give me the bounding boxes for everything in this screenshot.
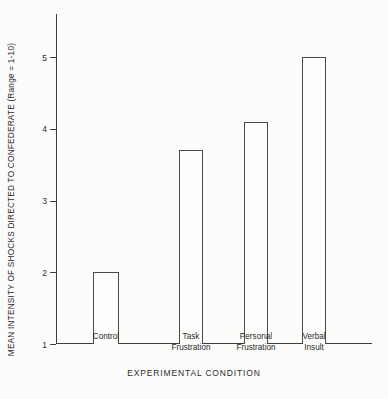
y-tick-5: 5 (50, 57, 56, 58)
y-tick-label-5: 5 (42, 53, 47, 62)
bar-personal-frustration (244, 122, 268, 344)
bar-verbal-insult (302, 57, 326, 344)
x-axis-label-3: Verbal Insult (274, 332, 354, 353)
bar-chart-figure: MEAN INTENSITY OF SHOCKS DIRECTED TO CON… (0, 0, 388, 399)
y-axis-line (56, 14, 57, 344)
x-axis-label-0: Control (66, 332, 146, 343)
y-tick-label-3: 3 (42, 197, 47, 206)
x-axis-title: EXPERIMENTAL CONDITION (0, 368, 388, 378)
y-tick-label-1: 1 (42, 340, 47, 349)
y-tick-2: 2 (50, 272, 56, 273)
y-tick-label-4: 4 (42, 125, 47, 134)
y-axis-title: MEAN INTENSITY OF SHOCKS DIRECTED TO CON… (0, 0, 22, 399)
bar-task-frustration (179, 150, 203, 344)
y-tick-1: 1 (50, 344, 56, 345)
plot-area: 12345 (56, 14, 372, 344)
y-tick-label-2: 2 (42, 269, 47, 278)
y-tick-4: 4 (50, 129, 56, 130)
y-tick-3: 3 (50, 201, 56, 202)
